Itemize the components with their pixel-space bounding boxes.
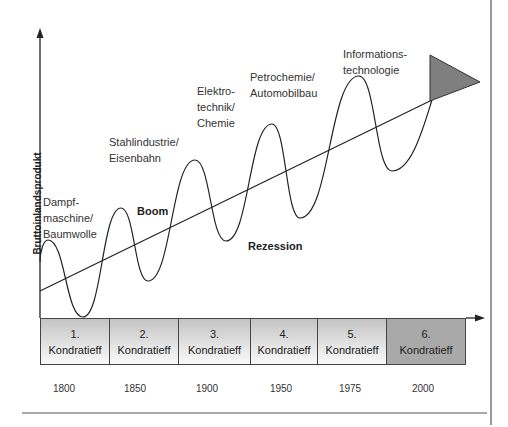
innovation-label-5: Informations- technologie [343, 46, 407, 78]
year-label: 2000 [393, 383, 453, 394]
cycle-label: Kondratieff [257, 342, 310, 358]
cycle-box-4: 4. Kondratieff [250, 318, 318, 365]
cycle-number: 1. [70, 326, 79, 342]
cycle-label: Kondratieff [325, 342, 378, 358]
cycle-box-1: 1. Kondratieff [40, 318, 110, 365]
boom-label: Boom [137, 203, 168, 219]
cycle-box-2: 2. Kondratieff [109, 318, 179, 365]
cycle-label: Kondratieff [399, 342, 452, 358]
innovation-line: Stahlindustrie/ [109, 134, 179, 150]
year-label: 1800 [34, 383, 94, 394]
cycle-box-6: 6. Kondratieff [386, 318, 466, 365]
cycle-box-5: 5. Kondratieff [317, 318, 387, 365]
innovation-line: technik/ [197, 99, 235, 115]
cycle-number: 4. [279, 326, 288, 342]
innovation-line: maschine/ [43, 210, 97, 226]
innovation-label-1: Dampf- maschine/ Baumwolle [43, 194, 97, 242]
cycle-label: Kondratieff [117, 342, 170, 358]
innovation-line: Informations- [343, 46, 407, 62]
y-axis-arrowhead [37, 28, 44, 38]
trend-arrowhead-triangle [430, 55, 480, 101]
innovation-line: Baumwolle [43, 226, 97, 242]
cycle-number: 2. [139, 326, 148, 342]
cycle-label: Kondratieff [188, 342, 241, 358]
cycle-number: 5. [347, 326, 356, 342]
year-label: 1950 [251, 383, 311, 394]
y-axis-label: Bruttoinlandsprodukt [32, 129, 43, 279]
cycle-box-3: 3. Kondratieff [178, 318, 251, 365]
kondratieff-wave [40, 76, 432, 317]
innovation-line: Eisenbahn [109, 150, 179, 166]
innovation-line: Petrochemie/ [250, 69, 317, 85]
rezession-label: Rezession [248, 238, 302, 254]
cycle-number: 6. [421, 326, 430, 342]
cycle-number: 3. [210, 326, 219, 342]
innovation-label-3: Elektro- technik/ Chemie [197, 83, 235, 131]
innovation-line: Chemie [197, 115, 235, 131]
year-label: 1975 [320, 383, 380, 394]
year-label: 1850 [105, 383, 165, 394]
year-label: 1900 [177, 383, 237, 394]
innovation-line: Dampf- [43, 194, 97, 210]
x-axis-arrowhead [475, 315, 485, 322]
innovation-line: technologie [343, 62, 407, 78]
innovation-label-4: Petrochemie/ Automobilbau [250, 69, 317, 101]
cycle-label: Kondratieff [48, 342, 101, 358]
trend-line [40, 100, 432, 291]
innovation-line: Automobilbau [250, 85, 317, 101]
innovation-label-2: Stahlindustrie/ Eisenbahn [109, 134, 179, 166]
innovation-line: Elektro- [197, 83, 235, 99]
